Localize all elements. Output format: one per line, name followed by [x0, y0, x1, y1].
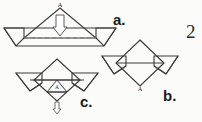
fig-b-left-wing-edge: [102, 56, 114, 74]
fig-a-left-flap-edge: [4, 28, 16, 46]
fig-c-fold-arrow-icon: [53, 102, 61, 114]
fig-c-guide-right: [57, 94, 64, 102]
figure-label-c: c.: [80, 94, 93, 109]
fig-c-upper-triangle: [34, 59, 80, 80]
fig-b-right-wing: [154, 56, 178, 74]
figure-page: A A A: [0, 0, 202, 122]
fig-c-guide-left: [50, 94, 57, 102]
figure-label-b: b.: [163, 88, 176, 103]
fig-b-vertex-label-a: A: [138, 85, 143, 92]
fig-b-right-wing-edge: [166, 56, 178, 74]
fig-c-vertex-label-a: A: [55, 84, 59, 90]
page-number: 2: [186, 22, 202, 41]
fig-c-left-wing-edge: [16, 73, 30, 91]
fig-c-right-wing-lower: [72, 83, 84, 91]
fig-c-left-wing-lower: [30, 83, 42, 91]
fig-c-right-wing-edge: [84, 73, 98, 91]
figure-label-a: a.: [113, 12, 126, 27]
diagram-b: A: [100, 36, 180, 92]
fig-a-fold-arrow-icon: [53, 15, 67, 36]
fig-b-left-wing: [102, 56, 126, 74]
fig-a-vertex-label-a: A: [57, 1, 62, 9]
